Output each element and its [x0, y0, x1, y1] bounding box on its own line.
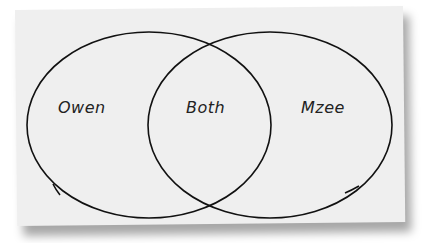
label-mzee: Mzee — [301, 98, 345, 117]
venn-circle-owen — [27, 32, 271, 218]
label-owen: Owen — [58, 98, 106, 117]
venn-circle-mzee — [148, 32, 392, 218]
label-both: Both — [186, 98, 225, 117]
venn-diagram — [0, 0, 430, 243]
